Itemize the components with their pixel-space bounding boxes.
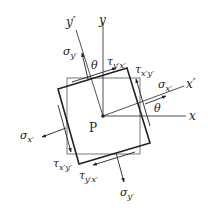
tau-x-prime-y-prime-right-label: τx′y′ [135, 63, 154, 78]
point-p-marker [101, 114, 105, 118]
y-axis-label: y [98, 13, 106, 27]
sigma-y-prime-bottom-label: σy′ [120, 186, 134, 201]
tau-y-prime-x-prime-top-label: τy′x′ [107, 55, 126, 70]
stress-element-diagram: y′ y x′ x θ θ P σy′ τy′x′ τx′y′ σx′ σx′ … [0, 0, 208, 210]
tau-y-prime-x-prime-bottom-label: τy′x′ [79, 169, 98, 184]
x-prime-axis [103, 86, 184, 116]
y-prime-axis-label: y′ [65, 15, 76, 29]
x-axis-label: x [189, 109, 196, 123]
tau-x-prime-y-prime-left-label: τx′y′ [53, 157, 72, 172]
theta-right-label: θ [154, 102, 161, 115]
sigma-x-prime-left-arrow [42, 128, 66, 137]
x-prime-axis-label: x′ [186, 77, 196, 91]
sigma-x-prime-left-label: σx′ [20, 129, 34, 144]
sigma-x-prime-right-label: σx′ [158, 78, 172, 93]
sigma-y-prime-top-label: σy′ [63, 45, 77, 60]
point-p-label: P [89, 121, 97, 135]
theta-top-label: θ [91, 59, 98, 72]
